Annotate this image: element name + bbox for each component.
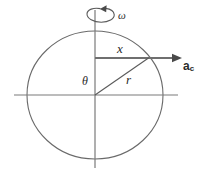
ac-base: a <box>183 59 190 73</box>
theta-label: θ <box>82 75 88 87</box>
circular-motion-figure: ω x r θ ac <box>0 0 209 175</box>
ac-subscript: c <box>190 64 194 73</box>
radius-line <box>95 58 149 95</box>
acceleration-arrowhead <box>172 54 182 62</box>
x-label: x <box>117 42 123 55</box>
rotation-arrow-icon <box>87 5 114 22</box>
figure-canvas <box>0 0 209 175</box>
r-label: r <box>126 73 131 86</box>
ac-label: ac <box>183 60 194 73</box>
omega-label: ω <box>118 10 126 21</box>
rotation-arrowhead <box>100 5 107 12</box>
